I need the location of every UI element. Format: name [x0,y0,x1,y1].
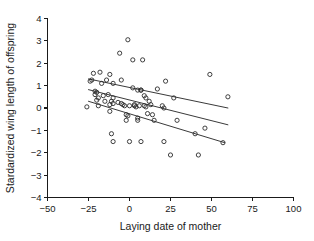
data-point [111,139,115,143]
data-point [203,126,207,130]
plot-canvas: 43210−1−2−3−4−50−250255075100Laying date… [0,0,314,241]
x-tick-label: 25 [165,203,176,214]
data-point [101,94,105,98]
data-point [141,58,145,62]
data-point [119,78,123,82]
data-point [155,87,159,91]
data-point [91,71,95,75]
data-point [85,105,89,109]
x-tick-label: 100 [286,203,302,214]
y-tick-label: −2 [31,147,42,158]
data-point [108,109,112,113]
y-tick-label: 4 [36,13,41,24]
data-point [109,132,113,136]
data-point [163,79,167,83]
y-tick-label: −1 [31,125,42,136]
data-point [127,104,131,108]
data-point [98,70,102,74]
data-point [108,72,112,76]
y-tick-label: 1 [36,80,41,91]
data-point [150,113,154,117]
x-tick-label: −50 [39,203,55,214]
data-point [226,95,230,99]
data-point [127,139,131,143]
y-tick-label: 2 [36,58,41,69]
data-point [175,118,179,122]
data-point [139,139,143,143]
data-point [145,111,149,115]
x-tick-label: 50 [206,203,217,214]
data-point [104,78,108,82]
data-point [208,72,212,76]
scatter-plot-figure: 43210−1−2−3−4−50−250255075100Laying date… [0,0,314,241]
y-tick-label: −4 [31,192,42,203]
data-point [103,99,107,103]
x-tick-label: 0 [127,203,132,214]
data-point [168,153,172,157]
y-tick-label: 3 [36,35,41,46]
x-tick-label: 75 [247,203,258,214]
x-axis-title: Laying date of mother [120,220,222,232]
data-point [196,153,200,157]
y-tick-label: −3 [31,170,42,181]
y-tick-label: 0 [36,102,41,113]
y-axis-title: Stardardized wing length of offspring [4,23,16,193]
data-point [162,139,166,143]
data-point [126,38,130,42]
data-point [131,58,135,62]
data-point [118,51,122,55]
data-point [124,118,128,122]
regression-line-lower-fit [89,101,225,142]
x-tick-label: −25 [80,203,96,214]
